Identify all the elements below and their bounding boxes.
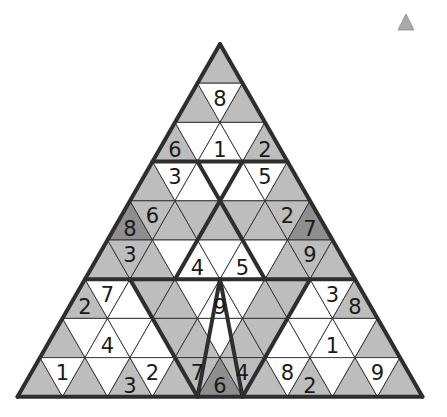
cell-number: 3	[123, 243, 136, 267]
cell-number: 8	[213, 87, 226, 111]
cell-number: 6	[168, 138, 181, 162]
cell-number: 1	[326, 334, 339, 358]
cell-number: 4	[191, 256, 204, 280]
cell-number: 2	[303, 374, 316, 398]
cell-r0-c0[interactable]	[198, 44, 243, 83]
cell-number: 4	[101, 334, 114, 358]
triangle-icon[interactable]	[396, 12, 416, 32]
cell-number: 9	[213, 295, 226, 319]
cell-number: 3	[326, 283, 339, 307]
cell-number: 7	[191, 361, 204, 385]
puzzle-board: 861235862734592793841132764829	[0, 0, 447, 417]
cell-number: 1	[56, 361, 69, 385]
cell-number: 7	[101, 283, 114, 307]
cell-number: 6	[146, 204, 159, 228]
cell-number: 3	[168, 165, 181, 189]
cell-number: 4	[236, 361, 249, 385]
cell-number: 8	[348, 295, 361, 319]
cell-number: 6	[213, 374, 226, 398]
triangle-icon-shape	[398, 14, 414, 30]
cell-number: 7	[303, 217, 316, 241]
cell-number: 2	[78, 295, 91, 319]
cell-number: 1	[213, 138, 226, 162]
cell-number: 9	[303, 243, 316, 267]
cell-number: 2	[258, 138, 271, 162]
cell-number: 8	[123, 217, 136, 241]
cell-number: 3	[123, 374, 136, 398]
cell-number: 9	[371, 361, 384, 385]
cell-number: 8	[281, 361, 294, 385]
cell-number: 2	[146, 361, 159, 385]
cell-number: 5	[258, 165, 271, 189]
cell-number: 5	[236, 256, 249, 280]
cell-number: 2	[281, 204, 294, 228]
